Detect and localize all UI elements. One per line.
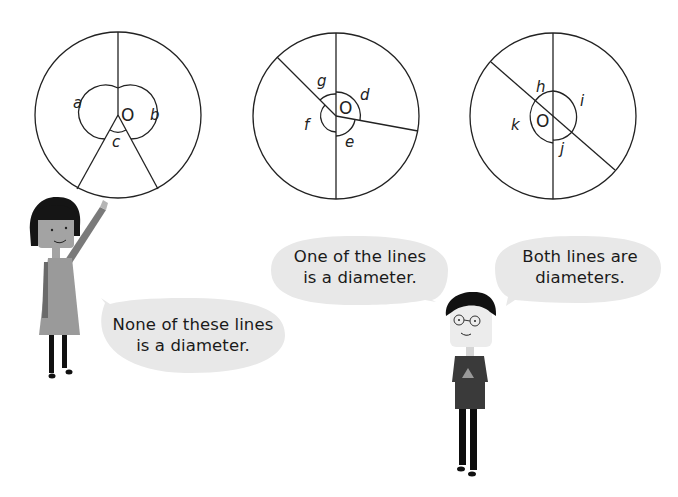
boy-face [450,303,492,347]
angle-label-j: j [558,140,565,158]
circle-diagram-3 [470,33,636,199]
circle-3-labels: h i j k O [511,78,585,158]
angle-label-g: g [317,72,327,90]
angle-arc-c [110,130,126,132]
girl-speech-line-2: is a diameter. [108,335,278,356]
angle-label-f: f [304,116,312,134]
angle-arc-j [553,133,571,140]
boy-right-speech-line-2: diameters. [505,267,655,288]
angle-label-c: c [112,133,121,151]
circle-diagram-2 [253,33,419,199]
angle-label-e: e [345,133,354,151]
boy-left-speech-text: One of the lines is a diameter. [280,246,440,288]
angle-label-d: d [360,86,370,104]
angle-label-a: a [73,94,82,112]
girl-speech-text: None of these lines is a diameter. [108,314,278,356]
centre-label-o-1: O [121,105,134,125]
radius-1c [118,115,158,189]
girl-speech-line-1: None of these lines [108,314,278,335]
circle-diagram-1 [35,32,201,198]
angle-label-i: i [580,92,585,110]
centre-label-o-3: O [536,111,549,131]
boy-right-speech-text: Both lines are diameters. [505,246,655,288]
radius-2a [277,57,336,116]
angle-label-k: k [511,116,521,134]
boy-character [446,292,496,477]
boy-shirt [452,356,488,409]
boy-right-leg [470,409,477,470]
radius-2b [336,116,418,131]
girl-character [30,197,108,379]
boy-left-leg [459,409,466,465]
angle-label-h: h [536,78,546,96]
boy-left-speech-line-2: is a diameter. [280,267,440,288]
girl-right-leg [62,335,67,368]
circle-1-labels: a b c O [73,94,160,151]
angle-arc-g [320,94,336,100]
diameter-illustration: a b c O g d f e O [0,0,678,497]
centre-label-o-2: O [339,98,352,118]
angle-label-b: b [150,106,160,124]
boy-left-speech-line-1: One of the lines [280,246,440,267]
girl-left-leg [49,335,54,373]
boy-right-speech-line-1: Both lines are [505,246,655,267]
